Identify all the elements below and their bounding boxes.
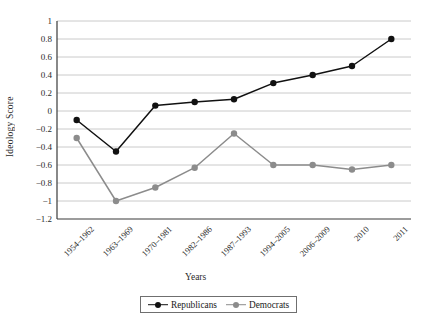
x-axis-title: Years	[185, 272, 206, 282]
legend-label-republicans: Republicans	[171, 300, 217, 310]
ideology-score-line-chart: Ideology Score 10.80.60.40.20−0.2−0.4−0.…	[0, 0, 434, 321]
x-axis-tick-label: 1982–1986	[179, 224, 213, 258]
x-axis-tick-label: 1963–1969	[101, 224, 135, 258]
x-axis-tick-label: 2011	[391, 224, 410, 243]
x-axis-tick-label: 2010	[352, 224, 371, 243]
legend-marker-democrats	[226, 300, 246, 309]
legend-label-democrats: Democrats	[249, 300, 289, 310]
x-axis-tick-label: 1970–1981	[140, 224, 174, 258]
legend-marker-republicans	[148, 300, 168, 309]
chart-legend: Republicans Democrats	[140, 296, 297, 313]
x-axis-tick-labels: 1954–19621963–19691970–19811982–19861987…	[0, 0, 434, 321]
x-axis-tick-label: 1994–2005	[258, 224, 292, 258]
x-axis-tick-label: 2006–2009	[297, 224, 331, 258]
x-axis-tick-label: 1987–1993	[219, 224, 253, 258]
legend-item-democrats[interactable]: Democrats	[226, 300, 289, 310]
x-axis-tick-label: 1954–1962	[61, 224, 95, 258]
legend-item-republicans[interactable]: Republicans	[148, 300, 217, 310]
